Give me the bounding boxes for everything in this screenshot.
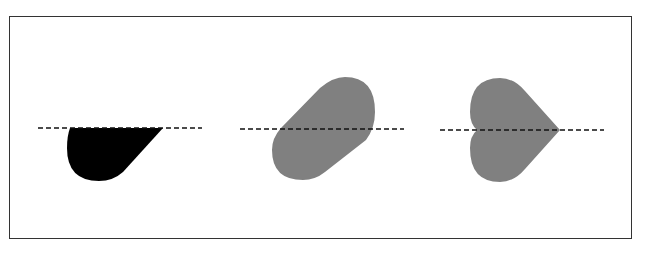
panel-1-half-teardrop	[38, 128, 202, 181]
panel-2-capsule	[240, 77, 404, 180]
diagram-canvas	[0, 0, 646, 254]
half-teardrop-shape	[67, 128, 163, 181]
panel-3-heart	[440, 78, 604, 182]
